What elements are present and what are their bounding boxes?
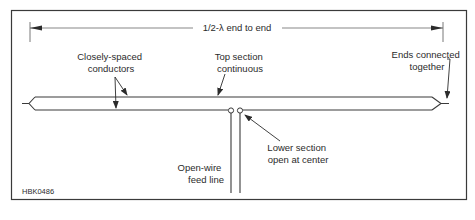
dimension-label: 1/2-λ end to end (203, 22, 272, 33)
leader-top-section (218, 74, 225, 95)
figure-id: HBK0486 (22, 187, 54, 196)
leader-ends-connected (447, 59, 450, 98)
leader-closely-to-top (115, 77, 127, 95)
label-feed-line: Open-wire feed line (178, 162, 224, 185)
label-lower-section: Lower section open at center (267, 142, 328, 165)
dimension-line: 1/2-λ end to end (30, 22, 443, 42)
folded-dipole-diagram: 1/2-λ end to end Closely-spaced conducto… (0, 0, 475, 220)
feed-terminal-right (237, 108, 242, 113)
figure-border (12, 11, 467, 200)
arrow-left-icon (30, 26, 42, 31)
arrow-right-icon (431, 26, 443, 31)
folded-dipole (22, 97, 449, 193)
feed-terminal-left (228, 108, 233, 113)
label-top-section: Top section continuous (215, 51, 266, 74)
label-ends-connected: Ends connected together (392, 49, 463, 72)
leader-lower-section (245, 115, 280, 141)
right-end-junction (432, 97, 449, 110)
left-end-junction (22, 97, 35, 110)
label-closely-spaced: Closely-spaced conductors (77, 51, 145, 74)
leader-closely-to-lower (115, 77, 116, 108)
